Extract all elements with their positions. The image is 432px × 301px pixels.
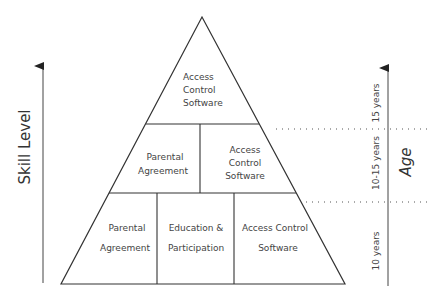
age-band-15-years: 15 years — [371, 83, 381, 122]
cell-bottom-access-control: Access Control Software — [242, 223, 308, 253]
svg-text:Software: Software — [258, 243, 298, 253]
svg-text:Parental: Parental — [109, 223, 146, 233]
cell-bottom-parental-agreement: Parental Agreement — [100, 223, 150, 253]
cell-bottom-education-participation: Education & Participation — [168, 223, 224, 253]
skill-level-label: Skill Level — [16, 109, 34, 184]
pyramid-diagram: Access Control Software Parental Agreeme… — [0, 0, 432, 301]
cell-middle-parental-agreement: Parental Agreement — [138, 152, 188, 176]
svg-text:Agreement: Agreement — [138, 166, 188, 176]
svg-text:Education &: Education & — [169, 223, 224, 233]
age-band-10-15-years: 10-15 years — [371, 136, 381, 190]
svg-text:Agreement: Agreement — [100, 243, 150, 253]
svg-text:Software: Software — [183, 98, 223, 108]
age-band-10-years: 10 years — [371, 231, 381, 270]
svg-text:Participation: Participation — [168, 243, 224, 253]
age-label: Age — [397, 147, 415, 177]
svg-text:Access: Access — [230, 145, 261, 155]
svg-text:Parental: Parental — [147, 152, 184, 162]
svg-text:Software: Software — [225, 171, 265, 181]
cell-middle-access-control: Access Control Software — [225, 145, 265, 181]
svg-text:Access: Access — [183, 72, 214, 82]
cell-top-access-control: Access Control Software — [183, 72, 223, 108]
svg-text:Access Control: Access Control — [242, 223, 308, 233]
svg-text:Control: Control — [229, 158, 262, 168]
svg-text:Control: Control — [183, 85, 216, 95]
